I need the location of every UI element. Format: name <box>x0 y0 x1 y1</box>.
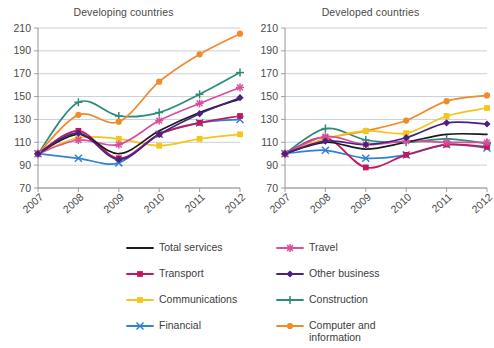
svg-text:2010: 2010 <box>141 190 167 215</box>
svg-text:2011: 2011 <box>429 190 454 214</box>
legend-item[interactable]: Construction <box>276 292 486 307</box>
svg-text:210: 210 <box>13 22 31 34</box>
legend-item[interactable]: Other business <box>276 266 486 281</box>
legend-marker-square-icon <box>126 267 154 281</box>
svg-text:190: 190 <box>13 44 31 56</box>
svg-text:170: 170 <box>13 67 31 79</box>
svg-text:2009: 2009 <box>348 190 374 215</box>
legend-marker-plus-icon <box>276 293 304 307</box>
svg-text:2008: 2008 <box>307 190 333 215</box>
svg-text:210: 210 <box>260 22 278 34</box>
legend-label: Financial <box>159 318 201 331</box>
svg-text:150: 150 <box>13 90 31 102</box>
svg-text:2007: 2007 <box>20 190 46 215</box>
legend-marker-diamond-icon <box>276 267 304 281</box>
panel-developing: Developing countries 7090110130150170190… <box>0 0 247 232</box>
svg-text:2007: 2007 <box>267 190 293 215</box>
legend-marker-x-icon <box>126 319 154 333</box>
svg-text:190: 190 <box>260 44 278 56</box>
legend-item[interactable]: Financial <box>126 318 276 333</box>
svg-text:2008: 2008 <box>60 190 86 215</box>
svg-text:70: 70 <box>266 182 278 194</box>
chart-page: Developing countries 7090110130150170190… <box>0 0 494 348</box>
svg-text:70: 70 <box>19 182 31 194</box>
svg-text:2009: 2009 <box>101 190 127 215</box>
svg-text:2012: 2012 <box>469 190 494 215</box>
svg-text:90: 90 <box>19 159 31 171</box>
panel-developed: Developed countries 70901101301501701902… <box>247 0 494 232</box>
svg-text:170: 170 <box>260 67 278 79</box>
svg-text:130: 130 <box>13 113 31 125</box>
legend-label: Other business <box>309 266 380 279</box>
legend-label: Communications <box>159 292 237 305</box>
svg-text:90: 90 <box>266 159 278 171</box>
legend-grid: Total servicesTravelTransportOther busin… <box>126 240 486 344</box>
svg-text:130: 130 <box>260 113 278 125</box>
legend-marker-circle-icon <box>276 319 304 333</box>
legend-item[interactable]: Total services <box>126 240 276 255</box>
svg-text:2010: 2010 <box>388 190 414 215</box>
svg-text:2011: 2011 <box>182 190 207 214</box>
legend-label: Transport <box>159 266 204 279</box>
legend-item[interactable]: Computer and information <box>276 318 486 343</box>
legend-item[interactable]: Transport <box>126 266 276 281</box>
plot-developing: 7090110130150170190210200720082009201020… <box>0 0 247 232</box>
svg-text:110: 110 <box>14 136 31 148</box>
legend-label: Total services <box>159 240 223 253</box>
svg-text:110: 110 <box>261 136 278 148</box>
chart-legend: Total servicesTravelTransportOther busin… <box>0 236 494 348</box>
legend-label: Travel <box>309 240 338 253</box>
legend-marker-star-icon <box>276 241 304 255</box>
plot-developed: 7090110130150170190210200720082009201020… <box>247 0 494 232</box>
svg-text:2012: 2012 <box>222 190 247 215</box>
legend-item[interactable]: Communications <box>126 292 276 307</box>
legend-label: Construction <box>309 292 368 305</box>
svg-text:150: 150 <box>260 90 278 102</box>
legend-marker-square-icon <box>126 293 154 307</box>
legend-label: Computer and information <box>309 318 376 343</box>
legend-item[interactable]: Travel <box>276 240 486 255</box>
legend-marker-none-icon <box>126 241 154 255</box>
